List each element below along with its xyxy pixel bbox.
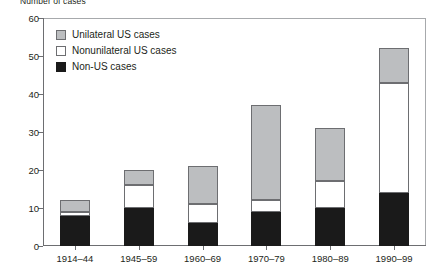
bar-1914-44[interactable] — [60, 200, 90, 246]
plot-frame-right — [425, 18, 426, 246]
y-axis-line — [43, 18, 44, 246]
x-tick-mark — [203, 246, 204, 250]
bar-segment[interactable] — [379, 48, 409, 82]
x-tick-label: 1970–79 — [248, 253, 285, 264]
plot-frame-top — [43, 18, 426, 19]
x-tick-label: 1945–59 — [120, 253, 157, 264]
y-tick-label: 60 — [28, 13, 39, 24]
bar-segment[interactable] — [60, 200, 90, 211]
y-tick-label: 20 — [28, 165, 39, 176]
bar-segment[interactable] — [315, 208, 345, 246]
x-tick-mark — [330, 246, 331, 250]
y-tick-label: 30 — [28, 127, 39, 138]
bar-segment[interactable] — [251, 105, 281, 200]
white-swatch-icon — [56, 46, 66, 56]
bar-segment[interactable] — [251, 200, 281, 211]
x-tick-label: 1914–44 — [56, 253, 93, 264]
legend-item-unilateral-us-cases: Unilateral US cases — [56, 27, 177, 42]
bar-segment[interactable] — [60, 216, 90, 246]
bar-segment[interactable] — [379, 193, 409, 246]
chart-legend: Unilateral US cases Nonunilateral US cas… — [56, 27, 177, 75]
bar-segment[interactable] — [379, 83, 409, 193]
x-tick-mark — [394, 246, 395, 250]
legend-item-non-us-cases: Non-US cases — [56, 59, 177, 74]
bar-1970-79[interactable] — [251, 105, 281, 246]
bar-segment[interactable] — [124, 170, 154, 185]
legend-item-label: Nonunilateral US cases — [72, 45, 177, 56]
x-tick-label: 1990–99 — [376, 253, 413, 264]
legend-item-label: Non-US cases — [72, 61, 136, 72]
bar-segment[interactable] — [315, 181, 345, 208]
bar-segment[interactable] — [124, 208, 154, 246]
bar-segment[interactable] — [188, 166, 218, 204]
y-tick-label: 0 — [34, 241, 39, 252]
bar-segment[interactable] — [124, 185, 154, 208]
legend-item-label: Unilateral US cases — [72, 29, 160, 40]
bar-1945-59[interactable] — [124, 170, 154, 246]
bar-segment[interactable] — [188, 223, 218, 246]
bar-1960-69[interactable] — [188, 166, 218, 246]
x-tick-mark — [75, 246, 76, 250]
gray-swatch-icon — [56, 30, 66, 40]
legend-item-nonunilateral-us-cases: Nonunilateral US cases — [56, 43, 177, 58]
bar-segment[interactable] — [251, 212, 281, 246]
chart-container: Number of cases 0102030405060 1914–44194… — [0, 0, 441, 279]
x-tick-label: 1960–69 — [184, 253, 221, 264]
bar-1990-99[interactable] — [379, 48, 409, 246]
y-tick-label: 40 — [28, 89, 39, 100]
chart-title: Number of cases — [20, 0, 86, 6]
x-tick-mark — [266, 246, 267, 250]
x-axis-line — [43, 245, 426, 246]
x-tick-mark — [139, 246, 140, 250]
bar-1980-89[interactable] — [315, 128, 345, 246]
y-tick-label: 10 — [28, 203, 39, 214]
bar-segment[interactable] — [315, 128, 345, 181]
y-tick-label: 50 — [28, 51, 39, 62]
bar-segment[interactable] — [188, 204, 218, 223]
bar-segment[interactable] — [60, 212, 90, 216]
black-swatch-icon — [56, 62, 66, 72]
x-tick-label: 1980–89 — [312, 253, 349, 264]
